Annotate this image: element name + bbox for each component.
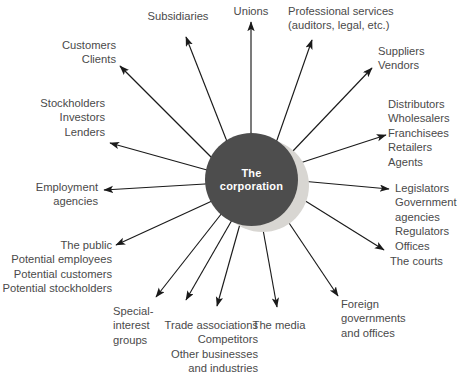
node-line: Foreign [341,297,406,311]
spoke-lower-left-extra [186,220,232,300]
node-line: agencies [8,194,98,208]
node-line: and offices [341,326,406,340]
spoke-the-media [262,224,277,307]
node-unions: Unions [211,4,291,18]
node-line: The media [239,318,319,332]
spoke-employment-agencies [104,184,205,190]
node-line: Clients [16,52,116,66]
node-line: Stockholders [6,96,105,110]
node-line: Potential customers [0,267,112,281]
node-line: (auditors, legal, etc.) [288,18,394,32]
spoke-the-public [116,201,212,245]
node-legislators-group: Legislators Government agencies Regulato… [395,181,457,253]
node-the-media: The media [239,318,319,332]
node-line: Vendors [378,58,425,72]
spoke-stockholders [110,143,207,170]
spoke-foreign-governments [283,214,338,296]
node-line: Potential stockholders [0,281,112,295]
node-employment-agencies: Employment agencies [8,180,98,209]
node-line: Investors [6,110,105,124]
hub-circle: The corporation [205,133,298,226]
spoke-the-courts [299,197,384,250]
node-line: Employment [8,180,98,194]
node-line: The courts [390,254,443,268]
node-line: Agents [388,155,450,169]
spoke-distributors [300,135,386,163]
node-line: Customers [16,38,116,52]
node-stockholders-investors-lenders: Stockholders Investors Lenders [6,96,105,139]
node-line: Special- [113,304,153,318]
node-suppliers-vendors: Suppliers Vendors [378,44,425,73]
node-the-courts: The courts [390,254,443,268]
spoke-customers-clients [120,66,212,158]
spoke-legislators [301,181,389,189]
node-line: Unions [211,4,291,18]
hub-label-line1: The [241,167,261,179]
node-line: Distributors [388,97,450,111]
node-special-interest-groups: Special- interest groups [113,304,153,347]
node-line: interest [113,318,153,332]
node-line: Regulators [395,224,457,238]
node-customers-clients: Customers Clients [16,38,116,67]
spoke-trade-associations [217,224,240,306]
spoke-suppliers-vendors [292,68,372,152]
node-line: Professional services [288,4,394,18]
hub-label: The corporation [220,167,283,193]
node-line: governments [341,311,406,325]
node-line: groups [113,333,153,347]
node-line: The public [0,238,112,252]
node-line: Legislators [395,181,457,195]
stakeholder-diagram: The corporation Subsidiaries Unions Prof… [0,0,463,378]
node-line: and industries [158,361,258,375]
node-line: Wholesalers [388,111,450,125]
node-line: Offices [395,239,457,253]
node-line: Franchisees [388,126,450,140]
hub-label-line2: corporation [220,180,283,192]
node-line: Competitors [158,332,258,346]
node-line: Lenders [6,125,105,139]
node-the-public-group: The public Potential employees Potential… [0,238,112,296]
node-foreign-governments: Foreign governments and offices [341,297,406,340]
node-line: agencies [395,210,457,224]
node-line: Potential employees [0,252,112,266]
node-distributors-group: Distributors Wholesalers Franchisees Ret… [388,97,450,169]
node-professional-services: Professional services (auditors, legal, … [288,4,394,33]
spoke-professional-services [277,40,312,140]
node-line: Suppliers [378,44,425,58]
node-line: Retailers [388,140,450,154]
node-line: Government [395,195,457,209]
node-line: Other businesses [158,347,258,361]
spoke-subsidiaries [186,37,226,139]
